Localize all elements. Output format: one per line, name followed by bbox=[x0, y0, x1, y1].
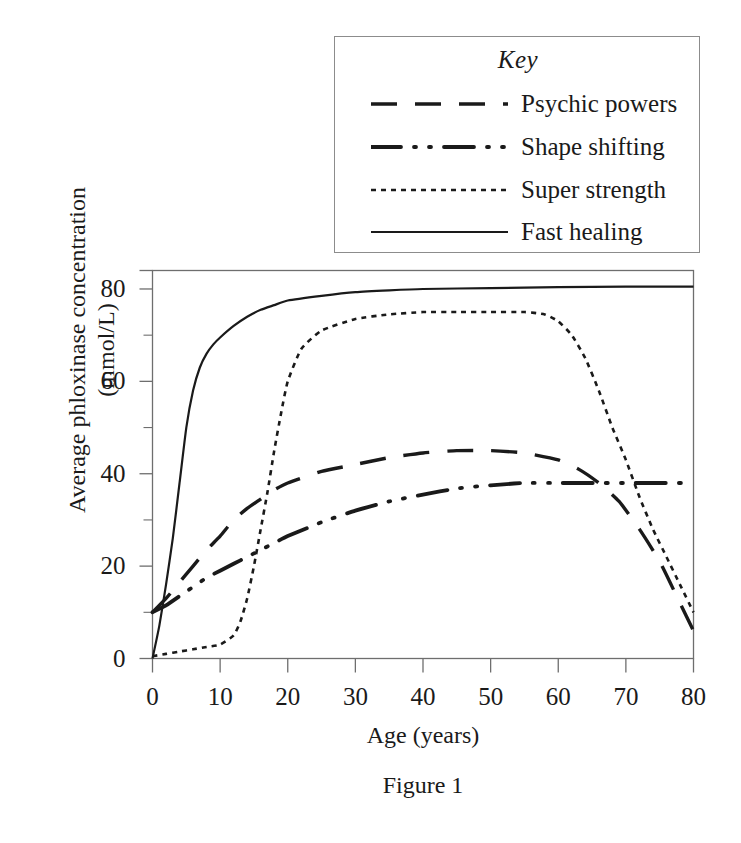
x-tick-label-60: 60 bbox=[530, 684, 586, 709]
x-tick-label-0: 0 bbox=[125, 684, 181, 709]
x-tick-label-10: 10 bbox=[192, 684, 248, 709]
x-tick-label-30: 30 bbox=[327, 684, 383, 709]
x-tick-label-50: 50 bbox=[463, 684, 519, 709]
y-tick-label-20: 20 bbox=[70, 553, 126, 578]
x-tick-label-20: 20 bbox=[260, 684, 316, 709]
figure-caption: Figure 1 bbox=[152, 772, 694, 799]
series-line-super-strength bbox=[153, 312, 694, 656]
series-line-psychic-powers bbox=[153, 450, 694, 630]
series-line-shape-shifting bbox=[153, 483, 694, 612]
x-tick-label-40: 40 bbox=[395, 684, 451, 709]
y-axis-title-line2: (mmol/L) bbox=[92, 150, 121, 550]
data-series bbox=[153, 287, 694, 659]
x-axis-title: Age (years) bbox=[152, 722, 694, 749]
plot-frame bbox=[153, 271, 694, 659]
y-axis-title-line1: Average phloxinase concentration bbox=[64, 187, 90, 513]
x-tick-label-80: 80 bbox=[666, 684, 722, 709]
axis-ticks bbox=[140, 271, 694, 673]
x-tick-label-70: 70 bbox=[598, 684, 654, 709]
series-line-fast-healing bbox=[153, 287, 694, 659]
y-axis-title: Average phloxinase concentration (mmol/L… bbox=[63, 150, 103, 550]
y-tick-label-0: 0 bbox=[70, 646, 126, 671]
figure-1: Key Psychic powers Shape shifting bbox=[0, 0, 741, 843]
